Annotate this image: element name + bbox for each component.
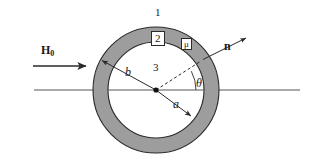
center-point [153,87,158,92]
region-label-1: 1 [155,7,161,18]
diagram-svg [0,0,312,163]
figure-canvas: 1 2 μ 3 H0 n b a θ [0,0,312,163]
inner-radius-label: a [173,98,179,110]
permeability-label: μ [181,38,192,50]
field-label: H0 [41,44,54,58]
normal-label: n [224,40,231,52]
angle-label: θ [196,77,202,89]
permeability-label-box: μ [181,34,192,50]
field-symbol: H [41,43,50,57]
outer-radius-label: b [125,66,131,78]
region-label-2: 2 [151,31,165,46]
region-label-2-box: 2 [151,29,165,45]
field-subscript: 0 [50,49,54,58]
region-label-3: 3 [153,62,159,73]
